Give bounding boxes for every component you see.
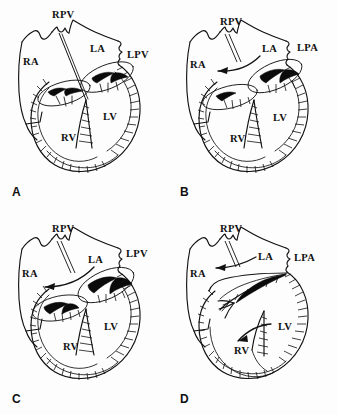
flow-arrow-atrial [216,257,256,271]
label-ra: RA [23,57,39,68]
label-lv: LV [278,322,292,333]
panel-a: RPV RA LA LPV RV LV A [0,0,168,207]
label-ra: RA [190,269,206,280]
label-lpa: LPA [294,253,315,264]
panel-b-drawing [168,0,336,207]
label-rv: RV [61,133,76,144]
label-rv: RV [234,346,249,357]
label-rv: RV [230,134,245,145]
label-la: LA [262,44,277,55]
label-lv: LV [273,113,287,124]
flow-arrow-atrial [218,56,260,74]
cardiac-figure: RPV RA LA LPV RV LV A [0,0,337,415]
label-lpv: LPV [126,249,148,260]
label-rpv: RPV [220,224,242,235]
label-rv: RV [63,342,78,353]
panel-c-drawing [0,207,168,414]
panel-letter-c: C [12,392,21,406]
label-lpv: LPV [127,50,149,61]
panel-letter-a: A [12,185,21,199]
panel-letter-b: B [180,185,189,199]
panel-d-drawing [168,207,336,414]
panel-a-drawing [0,0,168,207]
label-ra: RA [190,60,206,71]
label-rpv: RPV [52,224,74,235]
panel-letter-d: D [180,392,189,406]
label-lpa: LPA [297,43,318,54]
label-la: LA [90,44,105,55]
label-rpv: RPV [52,10,74,21]
panel-d: RPV RA LA LPA RV LV D [168,207,336,414]
label-rpv: RPV [220,17,242,28]
label-lv: LV [103,112,117,123]
panel-b: RPV RA LA LPA RV LV B [168,0,336,207]
label-la: LA [258,252,273,263]
panel-c: RPV RA LA LPV RV LV C [0,207,168,414]
label-lv: LV [104,322,118,333]
label-ra: RA [22,269,38,280]
label-la: LA [88,255,103,266]
